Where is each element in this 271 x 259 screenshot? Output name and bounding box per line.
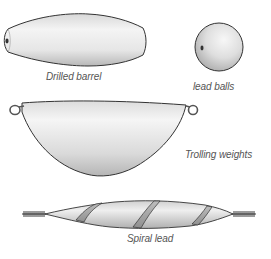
drilled-barrel-illustration	[4, 14, 146, 66]
label-lead-balls: lead balls	[193, 81, 234, 92]
ball-hole-icon	[201, 46, 204, 51]
label-spiral-lead: Spiral lead	[127, 233, 173, 244]
lead-ball-illustration	[195, 23, 243, 71]
spiral-lead-illustration	[22, 201, 256, 229]
label-drilled-barrel: Drilled barrel	[46, 71, 101, 82]
fishing-weights-diagram: Drilled barrel lead balls Trolling weigh…	[0, 0, 271, 259]
left-eyelet-icon	[10, 106, 20, 115]
label-trolling-weights: Trolling weights	[185, 149, 252, 160]
diagram-canvas	[0, 0, 271, 259]
left-wire-spring-icon	[22, 211, 46, 217]
trolling-weight-illustration	[10, 101, 198, 176]
drill-hole-icon	[5, 39, 8, 44]
right-wire-spring-icon	[232, 211, 256, 217]
